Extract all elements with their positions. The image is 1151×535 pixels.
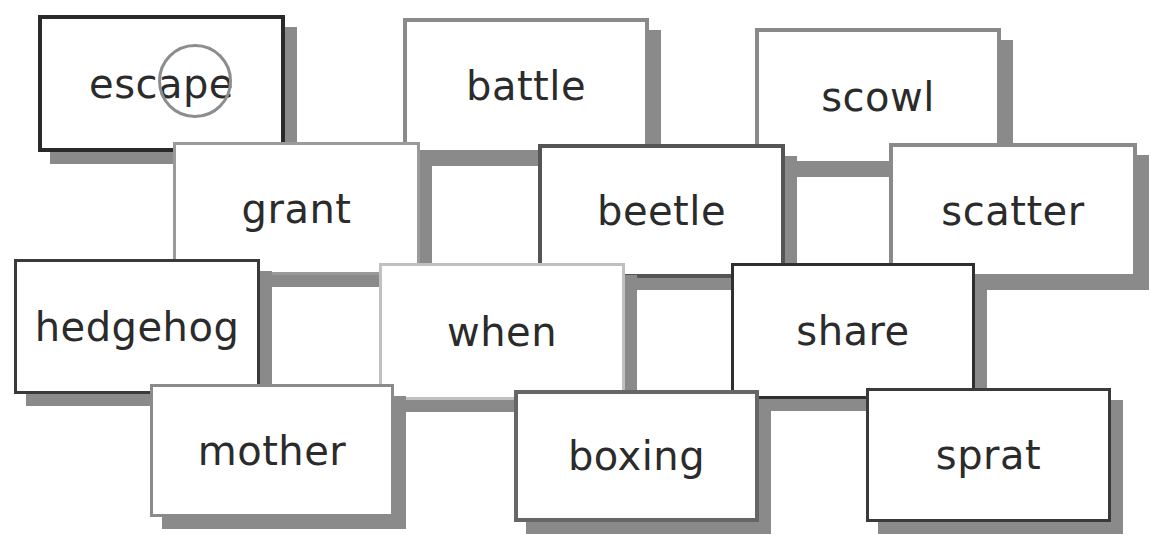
card-face[interactable]: mother — [150, 384, 394, 517]
card-word: share — [796, 311, 909, 351]
word-card-battle[interactable]: battle — [403, 18, 649, 154]
card-word: scatter — [941, 191, 1084, 231]
card-word: grant — [242, 189, 352, 229]
word-card-mother[interactable]: mother — [150, 384, 394, 517]
card-face[interactable]: escape — [38, 15, 285, 152]
card-word: when — [447, 312, 557, 352]
word-card-when[interactable]: when — [379, 263, 625, 400]
card-face[interactable]: hedgehog — [14, 259, 260, 394]
card-face[interactable]: share — [731, 263, 975, 399]
card-word: boxing — [568, 436, 705, 476]
card-face[interactable]: sprat — [866, 388, 1111, 522]
card-face[interactable]: when — [379, 263, 625, 400]
card-face[interactable]: beetle — [538, 144, 785, 278]
word-card-hedgehog[interactable]: hedgehog — [14, 259, 260, 394]
card-word: escape — [89, 64, 234, 104]
card-word: sprat — [936, 435, 1041, 475]
card-face[interactable]: grant — [173, 142, 420, 275]
word-card-scatter[interactable]: scatter — [889, 143, 1137, 278]
card-face[interactable]: scatter — [889, 143, 1137, 278]
card-word: beetle — [597, 191, 726, 231]
word-card-board: escape battle scowl grant beetle scatter — [0, 0, 1151, 535]
word-card-grant[interactable]: grant — [173, 142, 420, 275]
word-card-escape[interactable]: escape — [38, 15, 285, 152]
card-word: mother — [198, 431, 347, 471]
card-face[interactable]: boxing — [514, 390, 759, 522]
word-card-sprat[interactable]: sprat — [866, 388, 1111, 522]
word-card-boxing[interactable]: boxing — [514, 390, 759, 522]
word-card-share[interactable]: share — [731, 263, 975, 399]
word-card-beetle[interactable]: beetle — [538, 144, 785, 278]
card-word: hedgehog — [35, 307, 240, 347]
card-face[interactable]: battle — [403, 18, 649, 154]
card-word: battle — [466, 66, 586, 106]
card-word: scowl — [821, 77, 935, 117]
